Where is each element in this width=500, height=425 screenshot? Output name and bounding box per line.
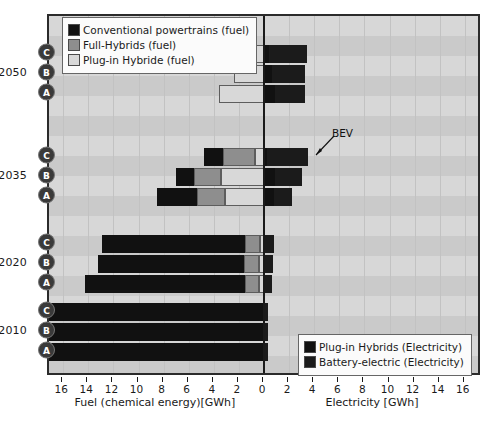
scenario-marker-2035-A: A <box>38 187 55 204</box>
axis-tick <box>237 377 238 382</box>
legend-electricity: Plug-in Hybrids (Electricity)Battery-ele… <box>298 334 472 376</box>
axis-tick-label: 14 <box>431 383 444 395</box>
axis-tick <box>162 377 163 382</box>
scenario-marker-2050-C: C <box>38 44 55 61</box>
axis-tick <box>287 377 288 382</box>
scenario-marker-2050-A: A <box>38 84 55 101</box>
axis-tick <box>312 377 313 382</box>
axis-tick <box>337 377 338 382</box>
axis-tick <box>212 377 213 382</box>
axis-tick <box>61 377 62 382</box>
axis-tick-label: 8 <box>359 383 366 395</box>
axis-tick-label: 0 <box>259 383 266 395</box>
scenario-marker-2010-B: B <box>38 322 55 339</box>
bar-segment-conv <box>49 323 264 341</box>
bar-segment-fh <box>245 235 260 253</box>
legend-swatch-icon <box>68 24 80 36</box>
axis-tick-label: 2 <box>234 383 241 395</box>
axis-tick-label: 14 <box>80 383 93 395</box>
bev-annotation-arrow <box>310 133 340 159</box>
scenario-marker-2050-B: B <box>38 64 55 81</box>
scenario-marker-2020-A: A <box>38 274 55 291</box>
bar-segment-bev <box>269 45 307 63</box>
axis-tick <box>362 377 363 382</box>
axis-tick <box>388 377 389 382</box>
bar-segment-fh <box>244 255 259 273</box>
legend-swatch-icon <box>68 54 80 66</box>
bar-segment-conv <box>204 148 223 166</box>
stacked-diverging-bar-chart: CBA2050CBA2035CBA2020CBA2010 16141210864… <box>0 0 500 425</box>
scenario-marker-2020-C: C <box>38 234 55 251</box>
year-label-2020: 2020 <box>0 256 27 269</box>
axis-tick-label: 10 <box>130 383 143 395</box>
axis-tick <box>438 377 439 382</box>
axis-tick-label: 2 <box>284 383 291 395</box>
legend-item: Plug-in Hybride (fuel) <box>68 53 249 67</box>
bar-segment-bev <box>265 255 273 273</box>
axis-tick-label: 6 <box>334 383 341 395</box>
axis-tick-label: 12 <box>105 383 118 395</box>
bar-segment-conv <box>102 235 245 253</box>
bar-segment-ph <box>219 85 264 103</box>
x-axis-ticks: 1614121086420246810121416 <box>47 377 480 397</box>
bar-segment-conv <box>49 343 264 361</box>
bar-segment-conv <box>49 303 264 321</box>
axis-tick-label: 16 <box>55 383 68 395</box>
legend-item: Plug-in Hybrids (Electricity) <box>304 340 464 354</box>
bar-segment-conv <box>157 188 197 206</box>
bar-segment-phe <box>264 188 274 206</box>
legend-item: Battery-electric (Electricity) <box>304 355 464 369</box>
axis-tick-label: 4 <box>309 383 316 395</box>
bar-segment-conv <box>98 255 244 273</box>
year-label-2035: 2035 <box>0 169 27 182</box>
axis-tick-label: 8 <box>158 383 165 395</box>
axis-tick <box>137 377 138 382</box>
bar-segment-bev <box>265 235 274 253</box>
zero-axis-line <box>263 16 265 373</box>
scenario-marker-2035-B: B <box>38 167 55 184</box>
legend-item: Conventional powertrains (fuel) <box>68 23 249 37</box>
bar-segment-phe <box>264 85 275 103</box>
bar-segment-fh <box>194 168 222 186</box>
axis-tick <box>262 377 263 382</box>
axis-tick <box>111 377 112 382</box>
bar-segment-fh <box>245 275 259 293</box>
legend-item: Full-Hybrids (fuel) <box>68 38 249 52</box>
bar-segment-bev <box>275 85 305 103</box>
axis-tick-label: 4 <box>208 383 215 395</box>
bar-segment-fh <box>223 148 256 166</box>
scenario-marker-2020-B: B <box>38 254 55 271</box>
axis-tick-label: 12 <box>406 383 419 395</box>
axis-tick <box>86 377 87 382</box>
bar-segment-bev <box>265 275 271 293</box>
legend-fuel: Conventional powertrains (fuel)Full-Hybr… <box>62 17 257 74</box>
bar-segment-ph <box>225 188 264 206</box>
bar-segment-bev <box>274 188 292 206</box>
bar-segment-fh <box>197 188 225 206</box>
axis-tick-label: 6 <box>183 383 190 395</box>
bar-segment-bev <box>272 65 306 83</box>
legend-item-label: Full-Hybrids (fuel) <box>83 39 176 51</box>
scenario-marker-2010-C: C <box>38 302 55 319</box>
axis-tick-label: 10 <box>381 383 394 395</box>
bar-segment-conv <box>85 275 246 293</box>
scenario-marker-2010-A: A <box>38 342 55 359</box>
year-label-2010: 2010 <box>0 324 27 337</box>
axis-tick <box>413 377 414 382</box>
bar-segment-bev <box>275 168 301 186</box>
legend-item-label: Battery-electric (Electricity) <box>319 356 464 368</box>
axis-tick <box>187 377 188 382</box>
x-axis-title-right: Electricity [GWh] <box>325 396 418 409</box>
bar-segment-phe <box>264 168 275 186</box>
axis-tick-label: 16 <box>456 383 469 395</box>
axis-tick <box>463 377 464 382</box>
bar-segment-conv <box>176 168 194 186</box>
scenario-marker-2035-C: C <box>38 147 55 164</box>
bar-segment-ph <box>221 168 264 186</box>
legend-item-label: Plug-in Hybride (fuel) <box>83 54 195 66</box>
legend-swatch-icon <box>304 341 316 353</box>
x-axis-title-left: Fuel (chemical energy)[GWh] <box>75 396 236 409</box>
bar-segment-phe <box>264 65 272 83</box>
bar-segment-bev <box>267 148 308 166</box>
legend-item-label: Plug-in Hybrids (Electricity) <box>319 341 462 353</box>
